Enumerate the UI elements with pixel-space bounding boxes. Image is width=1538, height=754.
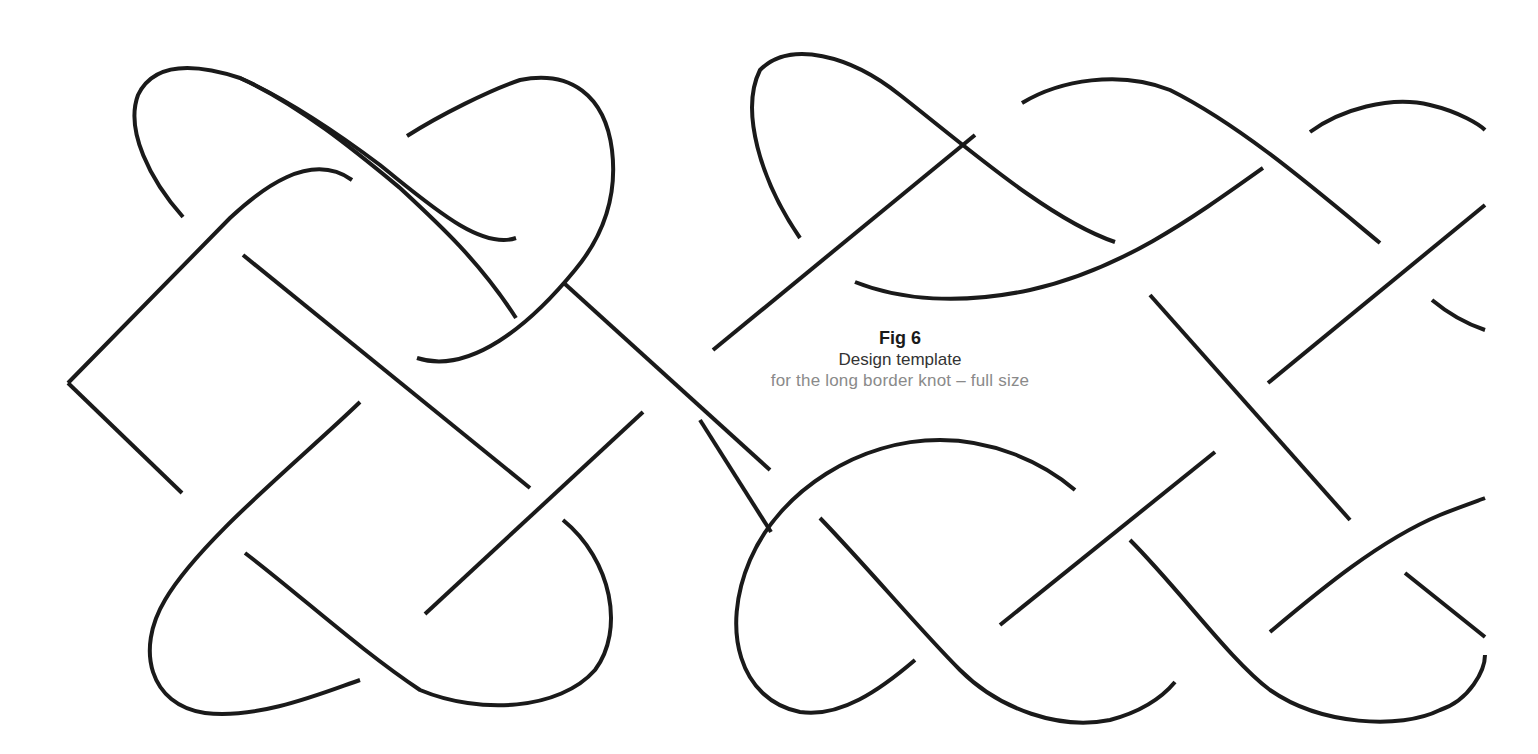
strand-right-top-big-loop [752, 54, 1115, 242]
strand-right-edge-arc-upper [1432, 300, 1485, 330]
strand-right-top-third-loop [1310, 102, 1485, 132]
strand-left-chevron-down [68, 383, 182, 493]
strand-lower-left-loop [150, 402, 360, 714]
strand-lower-bowl-loop [736, 440, 1075, 713]
strand-lower-cross-2 [1130, 540, 1485, 722]
strand-center-diag-1 [243, 255, 530, 488]
strand-lower-mid-diagonal [425, 412, 643, 614]
strand-right-long-up [713, 135, 975, 350]
strand-right-top-second-loop [1022, 79, 1380, 243]
strand-right-cross-down [1150, 295, 1350, 520]
strand-right-upper-diag [1268, 205, 1485, 383]
strand-lower-right-short [1405, 573, 1485, 637]
strand-top-left-loop-diag [240, 78, 516, 318]
figure-description: for the long border knot – full size [740, 370, 1060, 391]
figure-caption: Fig 6 Design template for the long borde… [740, 328, 1060, 391]
figure-label: Fig 6 [740, 328, 1060, 349]
figure-title: Design template [740, 349, 1060, 370]
strand-right-bowl [855, 168, 1263, 299]
strand-top-right-loop [407, 78, 613, 362]
strand-left-diagonal-up [68, 169, 352, 383]
strand-top-left-loop [134, 68, 516, 240]
